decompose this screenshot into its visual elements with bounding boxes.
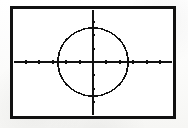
- circle-pixel-dot: [110, 91, 112, 93]
- circle-pixel-dot: [98, 95, 100, 97]
- circle-pixel-dot: [119, 83, 121, 85]
- circle-pixel-dot: [59, 73, 61, 75]
- circle-pixel-dot: [127, 61, 129, 63]
- circle-pixel-dot: [86, 28, 88, 30]
- circle-pixel-dot: [86, 95, 88, 97]
- circle-pixel-dot: [110, 32, 112, 34]
- plot-canvas: [10, 6, 176, 119]
- circle-pixel-dot: [125, 73, 127, 75]
- circle-pixel-dot: [75, 91, 77, 93]
- calculator-screen-frame: [10, 6, 176, 119]
- circle-pixel-dot: [59, 50, 61, 52]
- circle-pixel-dot: [98, 28, 100, 30]
- circle-pixel-dot: [57, 61, 59, 63]
- circle-pixel-dot: [65, 39, 67, 41]
- circle-pixel-dot: [75, 32, 77, 34]
- screenshot-root: [0, 0, 188, 128]
- circle-pixel-dot: [65, 83, 67, 85]
- circle-pixel-dot: [119, 39, 121, 41]
- circle-pixel-dot: [125, 50, 127, 52]
